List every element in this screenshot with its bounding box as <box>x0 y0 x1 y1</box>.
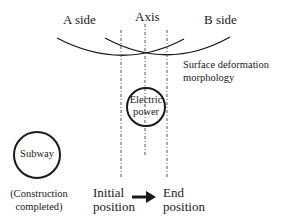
axis-label: Axis <box>135 10 160 24</box>
electric-power-label-line1: Electric <box>127 94 165 106</box>
subway-label: Subway <box>14 148 60 160</box>
surface-deformation-label-line1: Surface deformation <box>183 59 269 71</box>
construction-label-line2: completed) <box>4 201 74 213</box>
end-position-label-line2: position <box>163 200 205 214</box>
surface-deformation-label-line2: morphology <box>183 72 234 84</box>
construction-label-line1: (Construction <box>4 188 74 200</box>
movement-arrow-head <box>146 191 156 203</box>
a-side-label: A side <box>63 13 96 27</box>
b-side-label: B side <box>204 13 237 27</box>
initial-position-label-line2: position <box>93 200 135 214</box>
electric-power-label-line2: power <box>127 106 165 118</box>
